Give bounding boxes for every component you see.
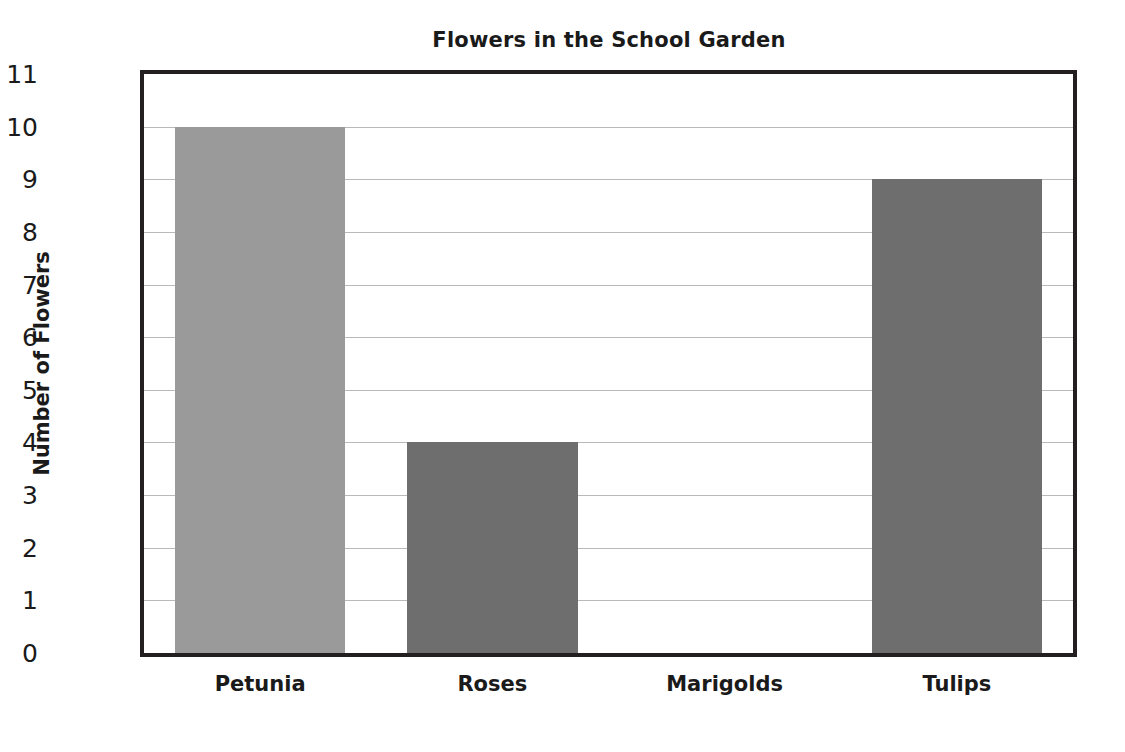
y-axis-tick-label: 2: [0, 535, 38, 560]
x-axis-tick-label: Marigolds: [666, 672, 783, 696]
bar: [175, 127, 346, 653]
y-axis-tick-label: 1: [0, 588, 38, 613]
y-axis-tick-label: 7: [0, 272, 38, 297]
bar: [872, 179, 1043, 653]
y-axis-tick-label: 3: [0, 483, 38, 508]
y-axis-tick-label: 5: [0, 377, 38, 402]
bar: [407, 442, 578, 653]
y-axis-title: Number of Flowers: [20, 70, 64, 657]
y-axis-tick-label: 0: [0, 641, 38, 666]
x-axis-tick-label: Petunia: [215, 672, 306, 696]
bar-chart-figure: Flowers in the School Garden Number of F…: [0, 0, 1125, 752]
y-axis-tick-label: 8: [0, 219, 38, 244]
x-axis-tick-label: Roses: [457, 672, 527, 696]
y-axis-tick-label: 11: [0, 62, 38, 87]
x-axis-tick-label: Tulips: [922, 672, 991, 696]
y-axis-tick-label: 4: [0, 430, 38, 455]
y-axis-tick-label: 9: [0, 167, 38, 192]
chart-title: Flowers in the School Garden: [140, 28, 1078, 52]
y-axis-tick-label: 6: [0, 325, 38, 350]
y-axis-tick-label: 10: [0, 114, 38, 139]
plot-area: [140, 70, 1077, 657]
